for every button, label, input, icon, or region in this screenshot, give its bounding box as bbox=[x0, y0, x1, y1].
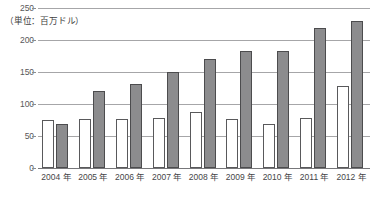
bar-series-gray-2 bbox=[130, 84, 142, 168]
bar-series-gray-3 bbox=[167, 72, 179, 168]
bar-series-white-6 bbox=[263, 124, 275, 168]
bar-series-white-2 bbox=[116, 119, 128, 168]
y-axis-tick-mark bbox=[32, 40, 36, 41]
y-axis-tick-label: 250 bbox=[4, 4, 34, 13]
bar-series-white-4 bbox=[190, 112, 202, 168]
bar-series-white-7 bbox=[300, 118, 312, 168]
bar-series-white-1 bbox=[79, 119, 91, 168]
bar-group bbox=[149, 8, 186, 168]
bars-container bbox=[38, 8, 370, 168]
bar-series-white-5 bbox=[226, 119, 238, 168]
bar-group bbox=[222, 8, 259, 168]
x-axis-labels: 2004 年2005 年2006 年2007 年2008 年2009 年2010… bbox=[38, 173, 370, 193]
y-axis-tick-mark bbox=[32, 72, 36, 73]
y-axis-tick-label: 200 bbox=[4, 36, 34, 45]
y-axis-tick-mark bbox=[32, 168, 36, 169]
bar-group bbox=[259, 8, 296, 168]
bar-series-white-8 bbox=[337, 86, 349, 168]
bar-series-white-3 bbox=[153, 118, 165, 168]
bar-series-gray-6 bbox=[277, 51, 289, 168]
x-axis-line bbox=[38, 168, 370, 169]
bar-group bbox=[38, 8, 75, 168]
bar-group bbox=[296, 8, 333, 168]
bar-series-gray-5 bbox=[240, 51, 252, 168]
bar-series-gray-4 bbox=[204, 59, 216, 168]
bar-group bbox=[75, 8, 112, 168]
bar-series-gray-0 bbox=[56, 124, 68, 168]
bar-series-gray-1 bbox=[93, 91, 105, 168]
bar-chart: （単位：百万ドル） 050100150200250 2004 年2005 年20… bbox=[0, 0, 375, 198]
y-axis-tick-label: 50 bbox=[4, 132, 34, 141]
x-axis-tick-label: 2012 年 bbox=[330, 173, 374, 182]
y-axis-tick-mark bbox=[32, 104, 36, 105]
y-axis-tick-label: 0 bbox=[4, 164, 34, 173]
y-axis: 050100150200250 bbox=[0, 0, 34, 198]
bar-series-white-0 bbox=[42, 120, 54, 168]
y-axis-tick-mark bbox=[32, 8, 36, 9]
bar-group bbox=[186, 8, 223, 168]
bar-group bbox=[112, 8, 149, 168]
y-axis-tick-mark bbox=[32, 136, 36, 137]
y-axis-tick-label: 150 bbox=[4, 68, 34, 77]
y-axis-tick-label: 100 bbox=[4, 100, 34, 109]
bar-group bbox=[333, 8, 370, 168]
bar-series-gray-8 bbox=[351, 21, 363, 168]
bar-series-gray-7 bbox=[314, 28, 326, 168]
